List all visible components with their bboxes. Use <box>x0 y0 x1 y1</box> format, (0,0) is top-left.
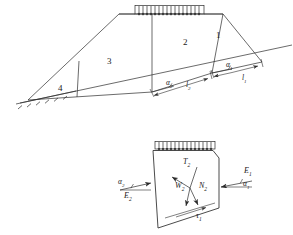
length-label-l1: l1 <box>242 74 247 84</box>
force-E2-arrow <box>120 183 151 190</box>
length-l1-dimension <box>232 66 258 73</box>
embankment-outline <box>28 14 262 100</box>
angle-label-alpha2-lower: α2 <box>118 178 124 188</box>
angle-label-alpha1-lower: α1 <box>243 180 249 190</box>
force-label-tau1: τ1 <box>196 212 202 222</box>
force-W2-arrow <box>186 188 190 206</box>
shear-tau1-arrow <box>165 203 215 218</box>
angle-label-alpha2-upper: α2 <box>166 79 172 89</box>
force-label-E2: E2 <box>124 192 132 202</box>
force-label-N2: N2 <box>199 182 207 192</box>
force-N2-arrow <box>190 188 198 205</box>
wedge-label-3: 3 <box>107 57 112 66</box>
diagram-vector-layer <box>0 0 293 235</box>
wedge-label-2: 2 <box>183 38 188 47</box>
force-label-T2: T2 <box>183 158 190 168</box>
length-l2-dimension-left <box>154 89 176 96</box>
length-label-l2: l2 <box>186 81 191 91</box>
surcharge-load-lower <box>155 142 215 151</box>
wedge-label-1: 1 <box>216 31 221 40</box>
length-l2-dimension <box>176 79 208 89</box>
force-label-W2: W2 <box>175 182 184 192</box>
angle-label-alpha1-upper: α1 <box>226 61 232 71</box>
length-l1-dimension-left <box>214 73 232 77</box>
ground-hatching-upper <box>16 91 76 109</box>
wedge-label-4: 4 <box>58 84 63 93</box>
force-label-E1: E1 <box>244 167 252 177</box>
wedge-division-lines <box>77 14 223 97</box>
diagram-canvas: 1 2 3 4 α1 α2 l1 l2 T2 W2 N2 E1 E2 τ1 α1… <box>0 0 293 235</box>
